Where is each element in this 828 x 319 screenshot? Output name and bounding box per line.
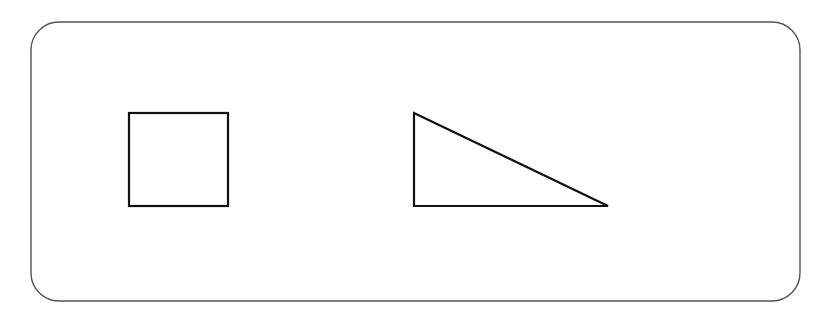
- shapes-drawing-surface: [0, 0, 828, 319]
- right-triangle-shape[interactable]: [414, 113, 608, 206]
- square-shape[interactable]: [129, 113, 228, 206]
- shapes-canvas: [0, 0, 828, 319]
- rounded-rectangle-frame: [31, 22, 800, 301]
